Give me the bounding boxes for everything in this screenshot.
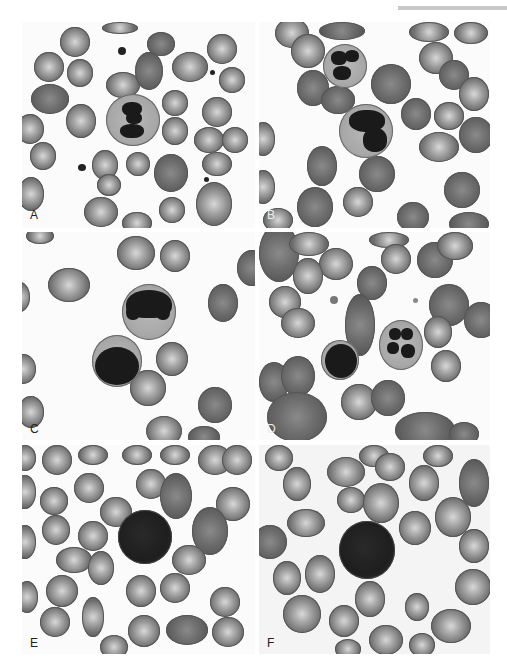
nucleus bbox=[95, 347, 139, 385]
nucleus bbox=[401, 344, 415, 358]
red-blood-cell bbox=[222, 127, 248, 153]
panel-label: E bbox=[30, 636, 38, 650]
red-blood-cell bbox=[126, 575, 156, 607]
red-blood-cell bbox=[359, 156, 395, 192]
red-blood-cell bbox=[26, 232, 54, 244]
red-blood-cell bbox=[434, 102, 464, 130]
red-blood-cell bbox=[395, 412, 455, 440]
red-blood-cell bbox=[297, 187, 333, 227]
red-blood-cell bbox=[293, 258, 323, 294]
red-blood-cell bbox=[409, 465, 439, 501]
platelet bbox=[78, 164, 86, 171]
red-blood-cell bbox=[291, 34, 325, 68]
red-blood-cell bbox=[405, 593, 429, 621]
panel-d: D bbox=[259, 232, 490, 440]
red-blood-cell bbox=[337, 487, 365, 513]
red-blood-cell bbox=[459, 529, 489, 563]
red-blood-cell bbox=[56, 547, 92, 573]
red-blood-cell bbox=[22, 581, 38, 613]
nucleus bbox=[345, 50, 359, 62]
red-blood-cell bbox=[22, 475, 36, 509]
red-blood-cell bbox=[46, 575, 78, 607]
red-blood-cell bbox=[424, 316, 452, 348]
red-blood-cell bbox=[371, 64, 411, 104]
red-blood-cell bbox=[335, 639, 361, 654]
red-blood-cell bbox=[40, 487, 68, 515]
red-blood-cell bbox=[267, 392, 327, 440]
red-blood-cell bbox=[42, 445, 72, 475]
red-blood-cell bbox=[444, 172, 480, 208]
red-blood-cell bbox=[287, 509, 325, 537]
red-blood-cell bbox=[431, 609, 471, 643]
red-blood-cell bbox=[449, 422, 479, 440]
red-blood-cell bbox=[160, 240, 190, 272]
red-blood-cell bbox=[219, 67, 245, 93]
nucleus bbox=[401, 328, 413, 340]
red-blood-cell bbox=[401, 98, 431, 130]
red-blood-cell bbox=[329, 605, 359, 637]
lymphocyte bbox=[321, 340, 359, 380]
red-blood-cell bbox=[319, 22, 365, 40]
lymphocyte bbox=[92, 335, 142, 387]
red-blood-cell bbox=[399, 511, 431, 545]
red-blood-cell bbox=[188, 426, 220, 440]
nucleus bbox=[325, 344, 357, 378]
red-blood-cell bbox=[135, 52, 163, 90]
red-blood-cell bbox=[122, 445, 152, 465]
red-blood-cell bbox=[172, 52, 208, 82]
red-blood-cell bbox=[66, 104, 96, 138]
red-blood-cell bbox=[198, 387, 232, 423]
red-blood-cell bbox=[97, 174, 121, 196]
red-blood-cell bbox=[464, 302, 490, 338]
red-blood-cell bbox=[454, 22, 488, 44]
red-blood-cell bbox=[305, 555, 335, 593]
red-blood-cell bbox=[22, 177, 44, 211]
red-blood-cell bbox=[283, 467, 311, 501]
red-blood-cell bbox=[84, 197, 118, 227]
red-blood-cell bbox=[117, 236, 155, 270]
red-blood-cell bbox=[319, 248, 353, 280]
platelet bbox=[330, 296, 338, 304]
red-blood-cell bbox=[22, 282, 30, 312]
neutrophil bbox=[379, 320, 423, 370]
red-blood-cell bbox=[74, 473, 104, 503]
red-blood-cell bbox=[281, 356, 315, 396]
red-blood-cell bbox=[146, 416, 182, 440]
red-blood-cell bbox=[128, 615, 160, 647]
basophil bbox=[118, 510, 172, 564]
nucleus bbox=[363, 128, 387, 152]
red-blood-cell bbox=[212, 617, 244, 647]
neutrophil bbox=[323, 44, 367, 88]
red-blood-cell bbox=[210, 587, 240, 617]
red-blood-cell bbox=[455, 569, 490, 605]
red-blood-cell bbox=[78, 521, 108, 551]
red-blood-cell bbox=[160, 473, 192, 519]
red-blood-cell bbox=[459, 117, 490, 153]
red-blood-cell bbox=[160, 573, 190, 603]
red-blood-cell bbox=[355, 581, 385, 617]
red-blood-cell bbox=[409, 22, 449, 42]
panel-label: A bbox=[30, 208, 38, 222]
red-blood-cell bbox=[102, 22, 138, 34]
red-blood-cell bbox=[162, 90, 188, 116]
platelet bbox=[204, 177, 209, 182]
red-blood-cell bbox=[67, 59, 93, 87]
red-blood-cell bbox=[194, 127, 224, 153]
red-blood-cell bbox=[22, 354, 36, 384]
red-blood-cell bbox=[34, 52, 64, 82]
red-blood-cell bbox=[381, 244, 411, 274]
red-blood-cell bbox=[122, 212, 152, 228]
red-blood-cell bbox=[207, 34, 237, 64]
red-blood-cell bbox=[126, 152, 150, 176]
red-blood-cell bbox=[156, 342, 188, 376]
panel-label: D bbox=[267, 422, 276, 436]
red-blood-cell bbox=[31, 84, 69, 114]
red-blood-cell bbox=[100, 635, 128, 654]
nucleus bbox=[120, 124, 144, 138]
red-blood-cell bbox=[22, 445, 36, 471]
red-blood-cell bbox=[307, 146, 337, 186]
red-blood-cell bbox=[202, 152, 232, 176]
red-blood-cell bbox=[369, 625, 403, 654]
red-blood-cell bbox=[259, 122, 275, 156]
red-blood-cell bbox=[327, 457, 365, 487]
